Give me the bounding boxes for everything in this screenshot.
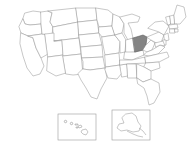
hawaii-island-molokai[interactable] — [75, 124, 78, 125]
state-nebraska[interactable] — [79, 33, 102, 47]
state-texas[interactable] — [78, 68, 107, 99]
state-connecticut[interactable] — [170, 29, 175, 33]
state-oklahoma[interactable] — [82, 57, 105, 70]
state-maine[interactable] — [174, 5, 186, 24]
west-states — [19, 8, 83, 76]
state-minnesota[interactable] — [96, 8, 113, 27]
state-alaska[interactable] — [117, 113, 141, 132]
hawaii-inset — [58, 114, 96, 140]
state-mississippi[interactable] — [120, 64, 128, 77]
state-kansas[interactable] — [81, 45, 103, 58]
hawaii-island-hawaii[interactable] — [81, 129, 88, 135]
alaska-panhandle — [139, 128, 146, 135]
us-map-graphic — [0, 0, 193, 150]
state-north-dakota[interactable] — [76, 8, 97, 22]
hawaii-island-maui[interactable] — [78, 125, 82, 128]
state-rhode-island[interactable] — [175, 29, 178, 32]
state-alabama[interactable] — [127, 64, 137, 78]
state-massachusetts[interactable] — [169, 24, 178, 29]
state-florida[interactable] — [137, 78, 160, 105]
northeast-states — [147, 5, 186, 47]
alaska-inset — [112, 110, 150, 140]
hawaii-island-oahu[interactable] — [70, 122, 73, 125]
state-arkansas[interactable] — [105, 53, 120, 67]
hawaii-island-lanai[interactable] — [76, 127, 78, 128]
hawaii-island-kauai[interactable] — [64, 120, 67, 123]
us-map-container — [0, 0, 193, 150]
state-south-dakota[interactable] — [78, 20, 99, 35]
state-louisiana[interactable] — [105, 65, 122, 79]
state-washington[interactable] — [23, 11, 42, 25]
